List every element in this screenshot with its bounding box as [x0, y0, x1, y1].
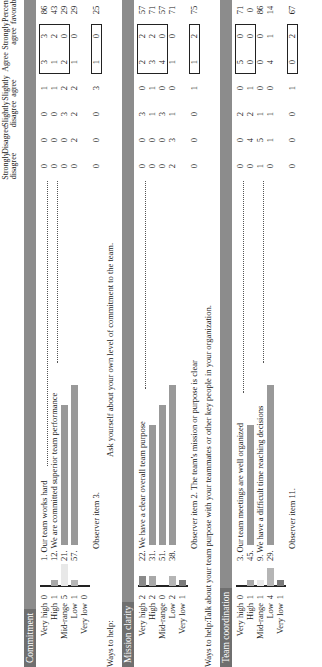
response-count: 0 — [40, 102, 49, 126]
distribution-label: Mid-range — [60, 603, 69, 663]
distribution-row: Mid-range1 — [256, 567, 265, 667]
distribution-bar — [257, 580, 264, 586]
leader-dots — [257, 181, 264, 363]
distribution-bar — [51, 580, 58, 586]
distribution-count: 0 — [236, 593, 245, 601]
item-bar — [159, 405, 166, 545]
survey-item: 1. Our team works hard — [40, 181, 49, 561]
distribution-bar — [139, 576, 146, 586]
response-count: 0 — [288, 128, 297, 152]
distribution-bar — [61, 564, 68, 586]
response-count: 0 — [190, 102, 199, 126]
distribution-count: 1 — [178, 593, 187, 601]
response-count: 1 — [168, 50, 177, 74]
percent-favorable: 86 — [256, 0, 265, 22]
ways-prefix: Ways to help: — [106, 620, 115, 667]
distribution-row: Low2 — [168, 567, 177, 667]
response-count: 1 — [148, 76, 157, 100]
response-count: 3 — [158, 102, 167, 126]
survey-item: 38. — [168, 181, 177, 561]
distribution-label: High — [246, 603, 255, 663]
distribution-label: Very low — [276, 603, 285, 663]
percent-favorable: 57 — [158, 0, 167, 22]
percent-favorable: 43 — [50, 0, 59, 22]
percent-favorable: 29 — [70, 0, 79, 22]
response-count: 0 — [236, 128, 245, 152]
ways-to-help: Ways to help:Ask yourself about your own… — [106, 0, 115, 667]
response-count: 1 — [246, 76, 255, 100]
section-header-bar: Mission clarity — [122, 0, 134, 667]
response-count: 0 — [70, 24, 79, 48]
distribution-row: Low4 — [266, 567, 275, 667]
response-count: 0 — [246, 154, 255, 178]
item-label: 51. — [158, 550, 167, 561]
ways-text: Talk about your team purpose with your t… — [204, 305, 213, 621]
observer-label: Observer item 11. — [288, 488, 297, 549]
column-header: Agree — [2, 48, 10, 76]
response-count: 1 — [256, 102, 265, 126]
response-count: 5 — [256, 128, 265, 152]
section-title: Commitment — [24, 609, 36, 667]
distribution-label: Mid-range — [158, 603, 167, 663]
distribution-bar — [267, 568, 274, 586]
response-count: 1 — [256, 154, 265, 178]
column-headers: Strongly disagreeDisagreeSlightly disagr… — [0, 0, 24, 180]
distribution-bar — [71, 580, 78, 586]
response-count: 0 — [70, 154, 79, 178]
distribution-row: High2 — [148, 567, 157, 667]
response-count: 2 — [236, 102, 245, 126]
response-count: 1 — [266, 102, 275, 126]
distribution-label: High — [50, 603, 59, 663]
section-header-bar: Commitment — [24, 0, 36, 667]
survey-item: 12. We are committed superior team perfo… — [50, 181, 59, 561]
survey-item: 21. — [60, 181, 69, 561]
leader-dots — [41, 181, 48, 466]
distribution-count: 2 — [138, 593, 147, 601]
item-label: 9. We have a difficult time reaching dec… — [256, 406, 265, 561]
column-header: Slightly agree — [2, 74, 18, 102]
item-bar — [247, 425, 254, 545]
item-label: 3. Our team meetings are well organized — [236, 423, 245, 561]
response-count: 0 — [256, 24, 265, 48]
section-title: Team coordination — [220, 588, 232, 667]
percent-favorable: 71 — [148, 0, 157, 22]
column-header: Slightly disagree — [2, 100, 18, 128]
item-label: 31. — [148, 550, 157, 561]
response-count: 0 — [158, 76, 167, 100]
percent-favorable: 75 — [190, 0, 199, 22]
distribution-count: 0 — [80, 593, 89, 601]
column-header: Strongly agree — [2, 22, 18, 50]
response-count: 0 — [190, 128, 199, 152]
response-count: 0 — [138, 128, 147, 152]
response-count: 0 — [92, 102, 101, 126]
survey-item: 51. — [158, 181, 167, 561]
ways-text: Ask yourself about your own level of com… — [106, 243, 115, 457]
survey-item: 9. We have a difficult time reaching dec… — [256, 181, 265, 561]
distribution-label: Very high — [138, 603, 147, 663]
response-count: 1 — [288, 76, 297, 100]
response-count: 3 — [60, 102, 69, 126]
response-count: 0 — [236, 154, 245, 178]
distribution-bar — [149, 576, 156, 586]
response-count: 0 — [138, 76, 147, 100]
leader-dots — [237, 181, 244, 393]
column-header: Disagree — [2, 126, 10, 154]
response-count: 1 — [50, 76, 59, 100]
survey-item: 31. — [148, 181, 157, 561]
response-count: 0 — [40, 128, 49, 152]
response-count: 0 — [168, 24, 177, 48]
item-list: 3. Our team meetings are well organized4… — [236, 181, 316, 561]
observer-item: Observer item 11. — [288, 181, 297, 561]
item-label: 29. — [266, 550, 275, 561]
response-count: 0 — [60, 154, 69, 178]
observer-label: Observer item 2. The team's mission or p… — [190, 360, 199, 549]
response-count: 0 — [236, 76, 245, 100]
response-count: 0 — [256, 76, 265, 100]
response-count: 0 — [50, 128, 59, 152]
highlight-box — [91, 24, 102, 74]
percent-favorable: 14 — [266, 0, 275, 22]
distribution-label: Mid-range — [256, 603, 265, 663]
distribution-label: Low — [266, 603, 275, 663]
item-label: 1. Our team works hard — [40, 481, 49, 562]
distribution-count: 4 — [266, 593, 275, 601]
